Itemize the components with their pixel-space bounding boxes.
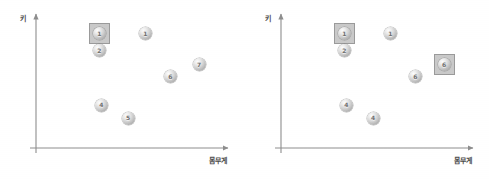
data-point-label: 4: [344, 102, 348, 108]
plot-area-left: 1127645: [0, 0, 244, 179]
data-point-marker[interactable]: 6: [164, 70, 177, 83]
scatter-plot-pair: 키 몸무게 1127645 키 몸무게 1126644: [0, 0, 489, 179]
data-point-label: 7: [197, 62, 201, 68]
data-point-marker[interactable]: 4: [95, 99, 108, 112]
data-point-marker[interactable]: 7: [193, 58, 206, 71]
data-point-marker[interactable]: 1: [93, 27, 106, 40]
data-point-label: 4: [99, 102, 103, 108]
data-point-marker[interactable]: 1: [338, 27, 351, 40]
data-point-label: 6: [168, 74, 172, 80]
data-point-label: 5: [126, 115, 130, 121]
data-point-marker[interactable]: 1: [139, 27, 152, 40]
data-point-label: 6: [413, 74, 417, 80]
data-point-label: 1: [342, 31, 346, 37]
data-point-label: 2: [97, 48, 101, 54]
data-point-label: 1: [388, 31, 392, 37]
plot-area-right: 1126644: [245, 0, 489, 179]
chart-panel-right: 키 몸무게 1126644: [245, 0, 489, 179]
data-point-label: 1: [143, 31, 147, 37]
data-point-marker[interactable]: 4: [367, 112, 380, 125]
data-point-marker[interactable]: 6: [409, 70, 422, 83]
data-point-marker[interactable]: 1: [384, 27, 397, 40]
data-point-label: 1: [97, 31, 101, 37]
chart-panel-left: 키 몸무게 1127645: [0, 0, 244, 179]
data-point-marker[interactable]: 5: [122, 112, 135, 125]
data-point-marker[interactable]: 2: [338, 44, 351, 57]
data-point-label: 4: [371, 115, 375, 121]
data-point-label: 2: [342, 48, 346, 54]
data-point-marker[interactable]: 2: [93, 44, 106, 57]
data-point-label: 6: [442, 62, 446, 68]
data-point-marker[interactable]: 6: [438, 58, 451, 71]
data-point-marker[interactable]: 4: [340, 99, 353, 112]
